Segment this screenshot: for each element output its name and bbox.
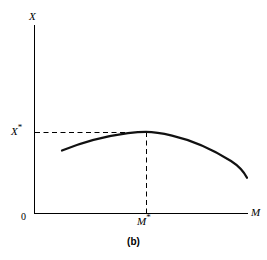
m-star-superscript: * — [146, 212, 151, 222]
concave-output-curve — [62, 132, 247, 178]
origin-label: 0 — [21, 212, 26, 222]
figure-panel-b: X M 0 X* M* (b) — [0, 0, 267, 260]
plot-canvas — [0, 0, 267, 260]
figure-caption: (b) — [0, 236, 267, 247]
x-axis-title: M — [251, 207, 260, 218]
x-axis-tick-label-m-star: M* — [137, 216, 151, 227]
y-axis-tick-label-x-star: X* — [11, 126, 22, 137]
y-axis-title: X — [29, 11, 36, 22]
x-star-superscript: * — [18, 122, 23, 132]
x-star-base: X — [11, 125, 18, 137]
m-star-base: M — [137, 215, 146, 227]
